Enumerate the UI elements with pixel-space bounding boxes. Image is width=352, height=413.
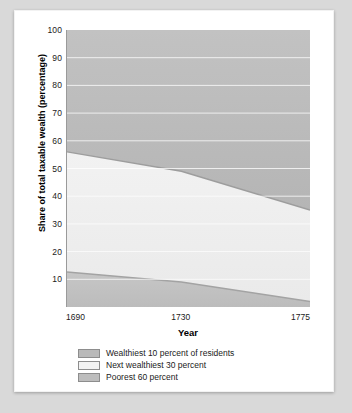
y-tick-80: 80	[52, 80, 62, 90]
x-tick-1775: 1775	[291, 312, 310, 322]
y-tick-10: 10	[52, 274, 62, 284]
legend-swatch-next-wealthiest-30	[78, 361, 100, 370]
y-tick-50: 50	[52, 164, 62, 174]
legend-label-poorest-60: Poorest 60 percent	[106, 372, 178, 382]
y-tick-30: 30	[52, 219, 62, 229]
y-tick-70: 70	[52, 108, 62, 118]
stacked-area-svg	[67, 30, 310, 307]
y-tick-60: 60	[52, 136, 62, 146]
y-tick-20: 20	[52, 247, 62, 257]
legend-label-wealthiest-10: Wealthiest 10 percent of residents	[106, 348, 234, 358]
legend: Wealthiest 10 percent of residents Next …	[78, 348, 234, 382]
plot-area	[66, 30, 310, 307]
y-axis-label: Share of total taxable wealth (percentag…	[37, 23, 47, 263]
y-tick-100: 100	[48, 25, 62, 35]
legend-item: Wealthiest 10 percent of residents	[78, 348, 234, 358]
plot-region: 100 90 80 70 60 50 40 30 20 10 1690 1730…	[66, 30, 310, 307]
legend-item: Next wealthiest 30 percent	[78, 360, 234, 370]
legend-item: Poorest 60 percent	[78, 372, 234, 382]
y-tick-90: 90	[52, 53, 62, 63]
x-tick-1730: 1730	[171, 312, 190, 322]
x-axis-label: Year	[66, 327, 310, 338]
legend-label-next-wealthiest-30: Next wealthiest 30 percent	[106, 360, 206, 370]
legend-swatch-wealthiest-10	[78, 349, 100, 358]
figure-card: Share of total taxable wealth (percentag…	[14, 10, 334, 392]
legend-swatch-poorest-60	[78, 373, 100, 382]
x-tick-1690: 1690	[66, 312, 85, 322]
y-tick-40: 40	[52, 191, 62, 201]
